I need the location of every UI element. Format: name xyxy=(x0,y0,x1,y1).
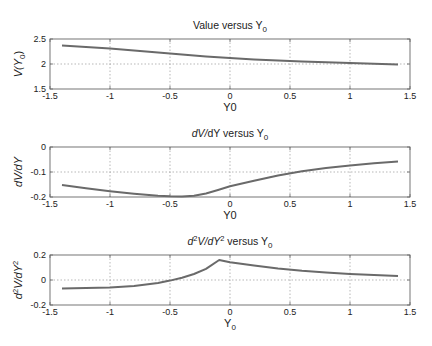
x-tick-label: -1 xyxy=(106,307,114,317)
x-tick-label: 1 xyxy=(347,91,352,101)
x-tick-label: 0 xyxy=(227,199,232,209)
x-tick-label: 1.5 xyxy=(404,199,417,209)
subplot-title: dV/dY versus Y0 xyxy=(192,127,269,142)
subplot-title: d2V/dY2 versus Y0 xyxy=(188,234,274,250)
y-tick-label: 0 xyxy=(41,142,46,152)
x-tick-label: -1 xyxy=(106,91,114,101)
subplot-2: -1.5-1-0.500.511.5-0.2-0.10dV/dY versus … xyxy=(12,127,416,221)
x-tick-label: 0.5 xyxy=(284,307,297,317)
subplot-1: -1.5-1-0.500.511.51.522.5Value versus Y0… xyxy=(12,19,416,113)
y-tick-label: -0.2 xyxy=(30,300,46,310)
x-tick-label: 0.5 xyxy=(284,199,297,209)
x-tick-label: 0 xyxy=(227,307,232,317)
subplot-title: Value versus Y0 xyxy=(193,19,268,34)
x-tick-label: 1 xyxy=(347,199,352,209)
y-tick-label: -0.2 xyxy=(30,192,46,202)
x-axis-label: Y0 xyxy=(223,209,236,221)
x-tick-label: 1.5 xyxy=(404,91,417,101)
x-tick-label: -0.5 xyxy=(162,307,178,317)
y-axis-label: dV/dY xyxy=(12,156,24,187)
y-axis-label: V(Y0) xyxy=(12,51,27,77)
x-axis-label: Y0 xyxy=(223,101,236,113)
y-tick-label: -0.1 xyxy=(30,167,46,177)
y-tick-label: 0.2 xyxy=(33,250,46,260)
x-tick-label: -0.5 xyxy=(162,91,178,101)
x-tick-label: 0 xyxy=(227,91,232,101)
x-tick-label: 1 xyxy=(347,307,352,317)
x-axis-label: Y0 xyxy=(224,317,236,332)
subplot-3: -1.5-1-0.500.511.5-0.200.2d2V/dY2 versus… xyxy=(11,234,416,332)
x-tick-label: 0.5 xyxy=(284,91,297,101)
y-axis-label: d2V/dY2 xyxy=(11,261,24,299)
x-tick-label: 1.5 xyxy=(404,307,417,317)
y-tick-label: 0 xyxy=(41,275,46,285)
x-tick-label: -1 xyxy=(106,199,114,209)
figure: -1.5-1-0.500.511.51.522.5Value versus Y0… xyxy=(0,0,432,346)
data-line xyxy=(62,46,398,65)
x-tick-label: -0.5 xyxy=(162,199,178,209)
y-tick-label: 2.5 xyxy=(33,34,46,44)
y-tick-label: 1.5 xyxy=(33,84,46,94)
y-tick-label: 2 xyxy=(41,59,46,69)
